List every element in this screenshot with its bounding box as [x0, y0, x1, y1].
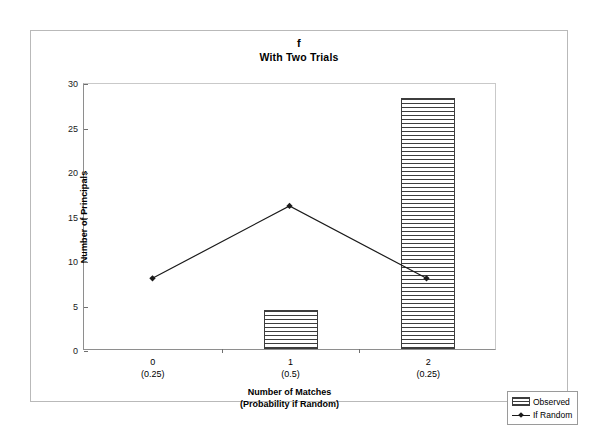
x-axis-tick-mark	[359, 349, 360, 353]
y-axis-tick-label: 30	[68, 79, 84, 89]
chart-legend: Observed If Random	[507, 391, 578, 425]
page-title: f	[31, 37, 567, 51]
y-axis-tick-label: 5	[73, 302, 84, 312]
data-point-marker-if-random	[423, 275, 429, 281]
y-axis-tick-label: 25	[68, 124, 84, 134]
legend-label-if-random: If Random	[533, 410, 572, 420]
x-tick-probability: (0.25)	[416, 368, 440, 380]
legend-label-observed: Observed	[533, 397, 570, 407]
y-axis-tick-label: 0	[73, 346, 84, 356]
x-axis-title-line1: Number of Matches	[248, 387, 332, 397]
line-diamond-swatch-icon	[512, 410, 530, 419]
chart-subtitle: With Two Trials	[31, 51, 567, 64]
x-tick-probability: (0.25)	[141, 368, 165, 380]
x-tick-category: 1	[288, 357, 293, 367]
x-tick-probability: (0.5)	[281, 368, 300, 380]
x-tick-category: 0	[150, 357, 155, 367]
data-point-marker-if-random	[286, 203, 292, 209]
x-tick-category: 2	[426, 357, 431, 367]
y-axis-tick-label: 10	[68, 257, 84, 267]
legend-item-observed[interactable]: Observed	[512, 395, 572, 408]
x-axis-tick-label: 1(0.5)	[281, 356, 300, 380]
chart-title-block: f With Two Trials	[31, 37, 567, 64]
x-axis-title-line2: (Probability if Random)	[240, 398, 339, 410]
x-axis-tick-label: 0(0.25)	[141, 356, 165, 380]
hatched-bar-swatch-icon	[512, 397, 530, 406]
line-series-if-random	[84, 84, 495, 349]
chart-frame: f With Two Trials Number of Principals 0…	[30, 30, 568, 402]
x-axis-tick-label: 2(0.25)	[416, 356, 440, 380]
legend-item-if-random[interactable]: If Random	[512, 408, 572, 421]
x-axis-title: Number of Matches (Probability if Random…	[240, 386, 339, 410]
plot-area: Number of Principals 051015202530 0(0.25…	[83, 83, 496, 350]
line-path-if-random	[153, 206, 427, 278]
y-axis-tick-label: 15	[68, 213, 84, 223]
x-axis-tick-mark	[222, 349, 223, 353]
data-point-marker-if-random	[149, 275, 155, 281]
y-axis-tick-label: 20	[68, 168, 84, 178]
